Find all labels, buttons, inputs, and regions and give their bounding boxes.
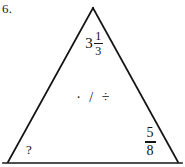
triangle-bottom-right-value: 5 8 (133, 126, 167, 158)
fraction-denominator: 8 (146, 144, 155, 158)
fraction-numerator: 5 (146, 126, 155, 140)
fraction-denominator: 3 (94, 45, 102, 57)
mixed-number: 3 1 3 (85, 30, 103, 57)
fraction: 5 8 (145, 126, 156, 158)
fraction: 1 3 (94, 30, 103, 57)
triangle-apex-value: 3 1 3 (63, 30, 125, 57)
operator-symbols: · / ÷ (52, 89, 136, 107)
fraction-numerator: 1 (94, 30, 102, 42)
mixed-number-whole: 3 (85, 36, 93, 51)
worksheet-problem: 6. 3 1 3 · / ÷ 5 8 ? (0, 0, 185, 167)
triangle-bottom-left-unknown: ? (18, 142, 40, 158)
